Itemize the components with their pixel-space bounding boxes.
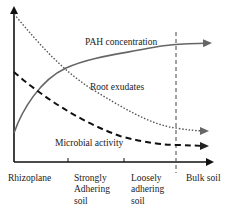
zone-loosely-line3: soil bbox=[131, 196, 145, 206]
zone-loosely-line2: adhering bbox=[131, 184, 164, 194]
zone-strongly-line3: soil bbox=[74, 196, 88, 206]
label-root-exudates: Root exudates bbox=[90, 82, 144, 92]
zone-strongly-line1: Strongly bbox=[74, 173, 107, 183]
zone-loosely-line1: Loosely bbox=[131, 173, 162, 183]
label-microbial-activity: Microbial activity bbox=[55, 138, 124, 148]
label-pah-concentration: PAH concentration bbox=[85, 37, 157, 47]
zone-bulk-soil: Bulk soil bbox=[186, 173, 221, 183]
zone-rhizoplane: Rhizoplane bbox=[8, 173, 51, 183]
rhizosphere-diagram: PAH concentration Root exudates Microbia… bbox=[0, 0, 228, 215]
root-exudates-curve bbox=[14, 14, 207, 131]
zone-strongly-line2: Adhering bbox=[74, 184, 110, 194]
